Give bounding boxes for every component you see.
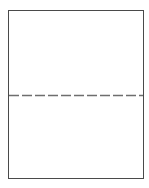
sheet-top-section [9,11,143,95]
paper-sheet [8,10,144,179]
sheet-bottom-section [9,97,143,178]
